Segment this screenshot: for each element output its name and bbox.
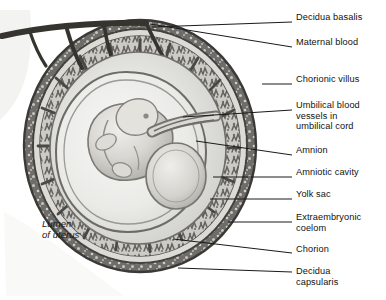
- yolk-sac: [146, 143, 206, 209]
- label-yolk-sac: Yolk sac: [296, 189, 331, 200]
- label-maternal-blood: Maternal blood: [296, 37, 358, 48]
- label-amniotic-cavity: Amniotic cavity: [296, 167, 359, 178]
- annotation-lumen-of-uterus: Lumen of uterus: [42, 218, 79, 241]
- label-extraembryonic-coelom: Extraembryonic coelom: [296, 212, 361, 233]
- figure-root: Decidua basalisMaternal bloodChorionic v…: [0, 0, 386, 300]
- label-decidua-capsularis: Decidua capsularis: [296, 266, 338, 287]
- label-chorionic-villus: Chorionic villus: [296, 74, 359, 85]
- label-amnion: Amnion: [296, 145, 328, 156]
- label-umbilical-vessels: Umbilical blood vessels in umbilical cor…: [296, 100, 360, 132]
- leader-decidua-capsularis: [178, 268, 292, 272]
- label-chorion: Chorion: [296, 244, 329, 255]
- label-decidua-basalis: Decidua basalis: [296, 12, 362, 23]
